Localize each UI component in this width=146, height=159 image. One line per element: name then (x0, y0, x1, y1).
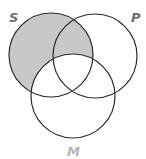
label-m: M (67, 144, 80, 159)
venn-diagram: S P M (0, 0, 146, 159)
label-s: S (9, 10, 18, 25)
label-p: P (131, 10, 141, 25)
